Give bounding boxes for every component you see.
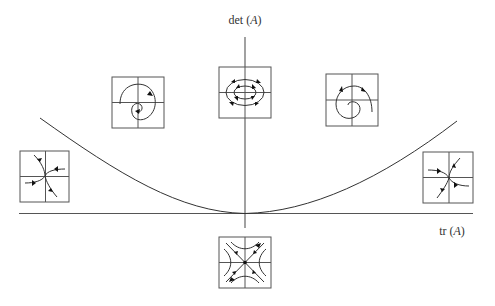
spiral-sink-portrait: [112, 77, 164, 128]
equilibrium-dot: [243, 261, 247, 265]
node-sink-portrait: [20, 151, 69, 202]
center-portrait: [219, 67, 271, 118]
saddle-portrait: [219, 237, 271, 288]
tr-axis-label: tr (A): [439, 224, 465, 238]
node-source-portrait: [423, 152, 473, 203]
spiral-source-portrait: [326, 74, 378, 126]
trace-determinant-diagram: det (A) tr (A): [0, 0, 495, 306]
det-axis-label: det (A): [228, 13, 261, 27]
parabola-curve: [40, 118, 457, 214]
